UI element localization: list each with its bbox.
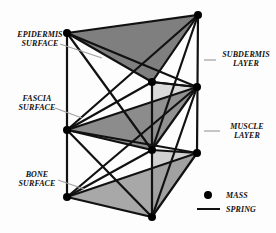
mass-legend-icon [204,191,212,199]
label-subdermis-layer: SUBDERMIS LAYER [220,50,272,68]
soft-tissue-model-diagram: EPIDERMIS SURFACE SUBDERMIS LAYER FASCIA… [0,0,276,233]
legend-spring-label: SPRING [226,205,256,214]
legend-mass-label: MASS [226,191,248,200]
label-epidermis-surface: EPIDERMIS SURFACE [10,30,70,48]
label-bone-surface: BONE SURFACE [14,170,60,188]
label-fascia-surface: FASCIA SURFACE [14,94,60,112]
label-muscle-layer: MUSCLE LAYER [224,122,270,140]
